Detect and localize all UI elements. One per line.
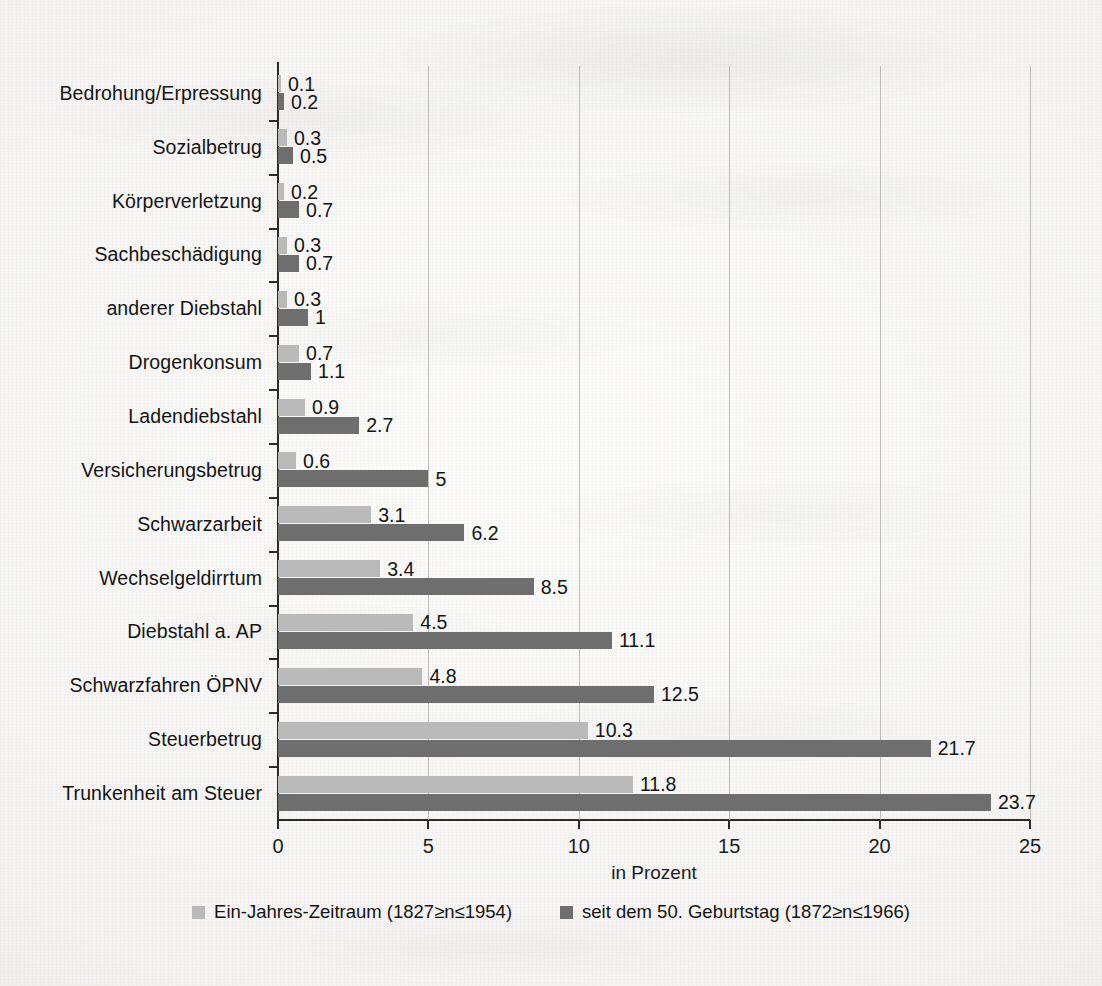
chart-category-row: Diebstahl a. AP4.511.1: [278, 605, 1030, 659]
x-axis-tick: [277, 820, 279, 829]
bar-value-label: 0.5: [300, 144, 327, 167]
bar-value-label: 0.6: [303, 449, 330, 472]
bar-value-label: 2.7: [366, 414, 393, 437]
bar-value-label: 0.2: [291, 90, 318, 113]
bar-value-label: 11.8: [640, 773, 677, 796]
bar-value-label: 0.9: [312, 396, 339, 419]
bar-chart: 0510152025Bedrohung/Erpressung0.10.2Sozi…: [0, 0, 1102, 986]
bar-value-label: 6.2: [471, 521, 498, 544]
chart-bar: 6.2: [278, 524, 464, 541]
chart-bar: 0.2: [278, 93, 284, 110]
y-axis-category-label: anderer Diebstahl: [106, 297, 262, 320]
chart-bar: 8.5: [278, 578, 534, 595]
bar-value-label: 0.7: [306, 252, 333, 275]
chart-category-row: Versicherungsbetrug0.65: [278, 443, 1030, 497]
y-axis-category-label: Trunkenheit am Steuer: [62, 782, 262, 805]
chart-bar: 10.3: [278, 722, 588, 739]
legend-item: seit dem 50. Geburtstag (1872≥n≤1966): [560, 901, 910, 923]
x-axis-tick: [427, 820, 429, 829]
y-axis-category-label: Sachbeschädigung: [95, 243, 262, 266]
bar-value-label: 4.5: [420, 611, 447, 634]
chart-bar: 0.2: [278, 183, 284, 200]
x-axis-tick-label: 25: [1019, 835, 1041, 858]
x-axis-tick-label: 5: [423, 835, 434, 858]
chart-bar: 1.1: [278, 363, 311, 380]
bar-value-label: 5: [435, 467, 446, 490]
y-axis-category-label: Ladendiebstahl: [128, 405, 262, 428]
chart-category-row: Drogenkonsum0.71.1: [278, 335, 1030, 389]
legend-swatch-icon: [192, 906, 205, 919]
bar-value-label: 8.5: [541, 575, 568, 598]
x-axis-tick: [879, 820, 881, 829]
chart-bar: 0.7: [278, 201, 299, 218]
chart-bar: 12.5: [278, 686, 654, 703]
y-axis-tick: [269, 766, 278, 768]
chart-bar: 0.9: [278, 399, 305, 416]
x-gridline: [1030, 66, 1031, 820]
x-axis-tick-label: 0: [272, 835, 283, 858]
chart-bar: 11.1: [278, 632, 612, 649]
chart-bar: 4.5: [278, 614, 413, 631]
y-axis-tick: [269, 551, 278, 553]
y-axis-tick: [269, 281, 278, 283]
x-axis-tick: [578, 820, 580, 829]
chart-bar: 5: [278, 470, 428, 487]
chart-category-row: Trunkenheit am Steuer11.823.7: [278, 766, 1030, 820]
bar-value-label: 3.4: [387, 557, 414, 580]
chart-category-row: Körperverletzung0.20.7: [278, 174, 1030, 228]
bar-value-label: 10.3: [595, 719, 633, 742]
y-axis-tick: [269, 497, 278, 499]
chart-bar: 0.6: [278, 452, 296, 469]
x-axis-tick-label: 15: [718, 835, 740, 858]
legend-swatch-icon: [560, 906, 573, 919]
bar-value-label: 1.1: [318, 360, 345, 383]
chart-bar: 0.3: [278, 291, 287, 308]
chart-bar: 4.8: [278, 668, 422, 685]
y-axis-tick: [269, 120, 278, 122]
chart-category-row: Steuerbetrug10.321.7: [278, 712, 1030, 766]
chart-category-row: Sozialbetrug0.30.5: [278, 120, 1030, 174]
bar-value-label: 1: [315, 306, 326, 329]
chart-bar: 0.7: [278, 255, 299, 272]
y-axis-category-label: Diebstahl a. AP: [127, 620, 262, 643]
x-axis-tick: [1029, 820, 1031, 829]
x-axis-tick: [728, 820, 730, 829]
x-axis-tick-label: 10: [568, 835, 590, 858]
y-axis-tick: [269, 658, 278, 660]
y-axis-category-label: Körperverletzung: [112, 189, 262, 212]
y-axis-category-label: Schwarzarbeit: [137, 512, 262, 535]
bar-value-label: 12.5: [661, 683, 699, 706]
y-axis-tick: [269, 712, 278, 714]
chart-bar: 2.7: [278, 417, 359, 434]
legend-label: Ein-Jahres-Zeitraum (1827≥n≤1954): [214, 901, 512, 923]
y-axis-category-label: Bedrohung/Erpressung: [59, 81, 262, 104]
y-axis-tick: [269, 389, 278, 391]
plot-area: 0510152025Bedrohung/Erpressung0.10.2Sozi…: [278, 66, 1030, 820]
y-axis-category-label: Sozialbetrug: [152, 135, 262, 158]
chart-category-row: Ladendiebstahl0.92.7: [278, 389, 1030, 443]
chart-bar: 3.1: [278, 506, 371, 523]
chart-bar: 0.5: [278, 147, 293, 164]
chart-bar: 0.3: [278, 237, 287, 254]
chart-category-row: Bedrohung/Erpressung0.10.2: [278, 66, 1030, 120]
chart-bar: 1: [278, 309, 308, 326]
bar-value-label: 3.1: [378, 503, 405, 526]
chart-bar: 11.8: [278, 776, 633, 793]
y-axis-tick: [269, 174, 278, 176]
y-axis-category-label: Wechselgeldirrtum: [99, 566, 262, 589]
legend-item: Ein-Jahres-Zeitraum (1827≥n≤1954): [192, 901, 512, 923]
y-axis-tick: [269, 605, 278, 607]
bar-value-label: 4.8: [429, 665, 456, 688]
y-axis-tick: [269, 228, 278, 230]
chart-bar: 23.7: [278, 794, 991, 811]
chart-bar: 21.7: [278, 740, 931, 757]
y-axis-category-label: Drogenkonsum: [129, 351, 262, 374]
chart-bar: 0.3: [278, 129, 287, 146]
chart-legend: Ein-Jahres-Zeitraum (1827≥n≤1954)seit de…: [0, 901, 1102, 923]
legend-label: seit dem 50. Geburtstag (1872≥n≤1966): [582, 901, 910, 923]
chart-bar: 0.1: [278, 75, 281, 92]
chart-category-row: anderer Diebstahl0.31: [278, 281, 1030, 335]
y-axis-category-label: Schwarzfahren ÖPNV: [69, 674, 262, 697]
y-axis-category-label: Versicherungsbetrug: [81, 458, 262, 481]
chart-bar: 0.7: [278, 345, 299, 362]
